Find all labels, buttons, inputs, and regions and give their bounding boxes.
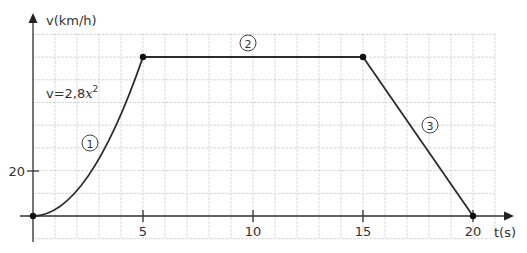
x-tick-20: 20 — [465, 224, 482, 239]
x-ticks — [27, 171, 473, 222]
segment-marker-2: 2 — [240, 35, 256, 51]
grid — [33, 33, 495, 239]
point-15-70 — [360, 54, 366, 60]
segment-3-deceleration — [363, 57, 473, 216]
y-axis — [29, 13, 38, 242]
formula-label: v=2,8x2 — [46, 84, 98, 101]
velocity-curve — [33, 57, 473, 216]
velocity-time-chart: 5 10 15 20 20 v(km/h) t(s) v=2,8x2 1 2 3 — [0, 0, 527, 253]
segment-marker-1: 1 — [82, 135, 98, 151]
x-tick-10: 10 — [245, 224, 262, 239]
point-20-0 — [470, 213, 476, 219]
y-axis-arrow-icon — [29, 13, 38, 23]
point-0-0 — [30, 213, 36, 219]
x-tick-5: 5 — [139, 224, 147, 239]
y-axis-label: v(km/h) — [46, 13, 97, 28]
svg-text:2: 2 — [245, 38, 252, 51]
svg-text:3: 3 — [427, 120, 434, 133]
svg-text:1: 1 — [87, 138, 94, 151]
x-axis-label: t(s) — [494, 225, 516, 240]
x-tick-15: 15 — [355, 224, 372, 239]
point-5-70 — [140, 54, 146, 60]
segment-marker-3: 3 — [422, 117, 438, 133]
x-axis-arrow-icon — [504, 212, 514, 221]
y-tick-20: 20 — [8, 164, 25, 179]
x-axis — [20, 212, 514, 221]
